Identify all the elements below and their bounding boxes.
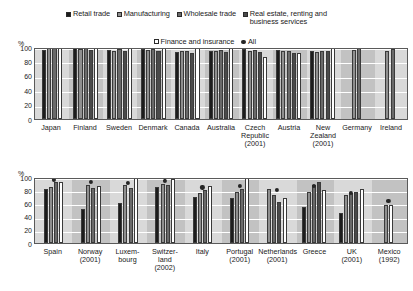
bar	[281, 51, 285, 119]
category-year: (1992)	[371, 256, 408, 264]
legend-item-label: Finance and insurance	[161, 38, 235, 46]
bar	[162, 48, 166, 119]
bar	[248, 51, 252, 119]
bar-group	[147, 179, 184, 243]
legend-item-label: Retail trade	[73, 10, 110, 18]
x-axis-category-label: Finland	[68, 124, 102, 149]
y-axis-tick-label: 40	[15, 214, 32, 221]
y-axis-tick-label: 40	[15, 88, 32, 95]
bar-group	[72, 179, 109, 243]
bar	[123, 185, 127, 243]
all-series-dot	[238, 184, 242, 188]
legend-item: Finance and insurance	[154, 38, 234, 46]
bar	[175, 52, 179, 119]
y-axis-tick-label: 100	[15, 45, 32, 52]
bar	[209, 51, 213, 119]
bar	[155, 187, 159, 243]
category-name: Luxem-​bourg	[109, 248, 146, 264]
category-year: (2001)	[71, 256, 108, 264]
x-axis-category-label: Japan	[34, 124, 68, 149]
bar	[277, 202, 281, 243]
category-name: Ireland	[374, 124, 408, 132]
category-name: Japan	[34, 124, 68, 132]
legend-item: Wholesale trade	[177, 10, 236, 18]
x-axis-category-label: Italy	[184, 248, 221, 273]
bar	[58, 48, 62, 119]
x-axis-category-label: Czech Republic(2001)	[238, 124, 272, 149]
bar	[302, 207, 306, 243]
category-name: Spain	[34, 248, 71, 256]
bar	[224, 52, 228, 119]
bar-group	[69, 49, 103, 119]
legend-item: Manufacturing	[117, 10, 170, 18]
bar	[42, 50, 46, 119]
category-year: (2001)	[221, 256, 258, 264]
legend-item-label: Manufacturing	[124, 10, 170, 18]
x-axis-category-label: Spain	[34, 248, 71, 273]
bar	[339, 213, 343, 243]
bar	[312, 185, 316, 243]
all-series-dot	[185, 48, 189, 49]
category-name: Greece	[296, 248, 333, 256]
category-name: Italy	[184, 248, 221, 256]
bar	[276, 50, 280, 119]
bar	[84, 48, 88, 119]
bar-group	[339, 49, 373, 119]
bar	[326, 51, 330, 119]
legend-dot-icon	[241, 40, 245, 44]
bar	[320, 51, 324, 119]
bar	[52, 48, 56, 119]
bar	[357, 48, 361, 119]
bar	[203, 190, 207, 243]
legend-swatch-icon	[117, 12, 122, 17]
bar	[297, 53, 301, 119]
y-axis-tick-label: 80	[15, 188, 32, 195]
all-series-dot	[163, 179, 167, 183]
bar	[245, 178, 249, 243]
x-axis-category-label: Norway(2001)	[71, 248, 108, 273]
bar	[107, 50, 111, 119]
all-series-dot	[386, 198, 390, 202]
x-axis-category-label: Austria	[272, 124, 306, 149]
category-year: (2002)	[146, 264, 183, 272]
all-series-dot	[275, 188, 279, 192]
bar-group	[258, 179, 295, 243]
category-name: Austria	[272, 124, 306, 132]
x-axis-category-label: Greece	[296, 248, 333, 273]
bar	[315, 52, 319, 119]
bar-group	[373, 49, 407, 119]
bar	[146, 50, 150, 119]
x-axis-category-label: Ireland	[374, 124, 408, 149]
bar-group	[306, 49, 340, 119]
bar-group	[35, 49, 69, 119]
bar	[219, 50, 223, 119]
bar	[258, 52, 262, 119]
chart-page: Retail tradeManufacturingWholesale trade…	[0, 0, 413, 291]
y-axis-tick-label: 60	[15, 201, 32, 208]
y-axis-tick-label: 20	[15, 227, 32, 234]
bar	[193, 197, 197, 243]
category-name: Switzer-​land	[146, 248, 183, 264]
legend-swatch-icon	[66, 12, 71, 17]
bar	[307, 192, 311, 243]
category-name: New Zealand	[306, 124, 340, 140]
bar-group	[170, 49, 204, 119]
x-axis-category-label: New Zealand(2001)	[306, 124, 340, 149]
bar	[352, 50, 356, 119]
bar	[349, 193, 353, 243]
category-year: (2001)	[238, 140, 272, 148]
bar-group	[238, 49, 272, 119]
bar	[360, 189, 364, 243]
bar-group	[333, 179, 370, 243]
category-name: Canada	[170, 124, 204, 132]
bar	[389, 205, 393, 243]
bar	[391, 49, 395, 119]
x-axis-labels-top: JapanFinlandSwedenDenmarkCanadaAustralia…	[34, 124, 408, 149]
category-name: Germany	[340, 124, 374, 132]
bar	[317, 182, 321, 243]
bar	[134, 178, 138, 243]
bar	[354, 192, 358, 243]
category-name: Denmark	[136, 124, 170, 132]
bar	[47, 48, 51, 119]
category-year: (2001)	[306, 140, 340, 148]
